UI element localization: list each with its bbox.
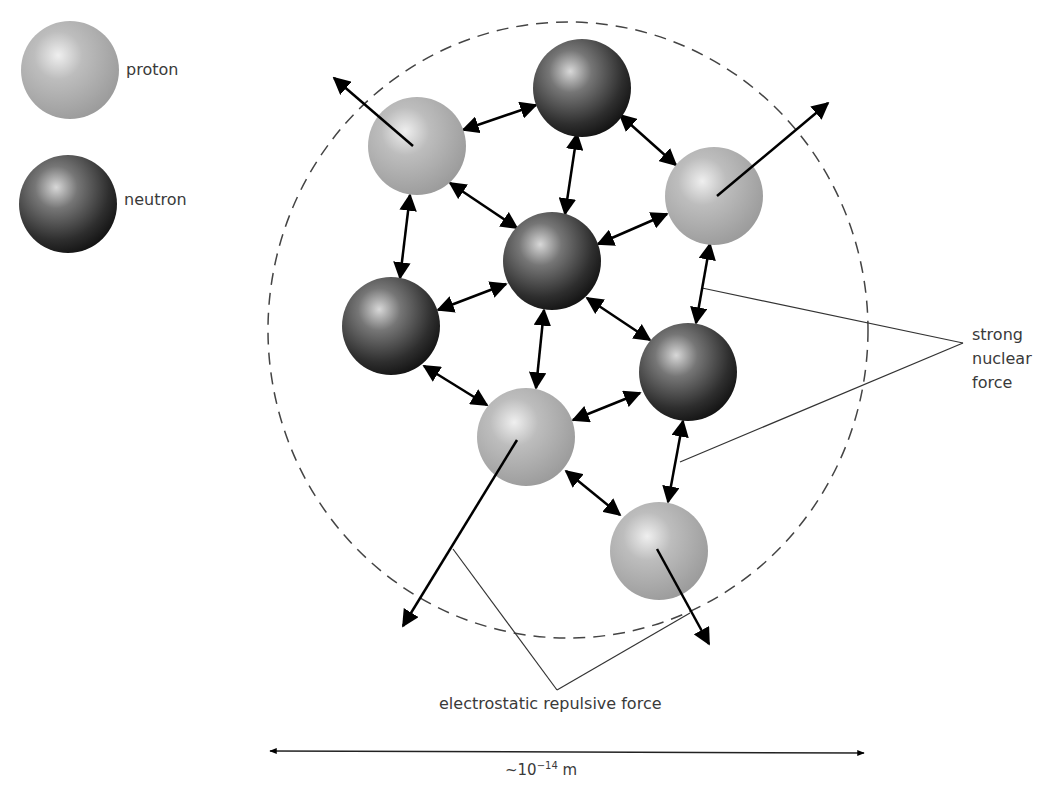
electrostatic-label: electrostatic repulsive force (439, 692, 662, 716)
scale-bar (270, 751, 864, 753)
scale-unit: m (558, 761, 577, 779)
proton-sphere (368, 97, 466, 195)
neutron-sphere (503, 212, 601, 310)
proton-sphere (665, 147, 763, 245)
nucleus-diagram (0, 0, 1051, 789)
legend-neutron-sphere (19, 155, 117, 253)
proton-sphere (477, 388, 575, 486)
legend-proton-label: proton (126, 58, 178, 82)
neutron-sphere (533, 39, 631, 137)
strong-force-line1: strong (972, 323, 1023, 347)
strong-force-line3: force (972, 371, 1012, 395)
neutron-sphere (639, 323, 737, 421)
neutron-sphere (342, 277, 440, 375)
scale-label: ~10−14 m (505, 760, 577, 779)
strong-force-line2: nuclear (972, 347, 1032, 371)
scale-base: ~10 (505, 761, 537, 779)
legend-proton-sphere (21, 21, 119, 119)
particles (342, 39, 763, 600)
scale-exponent: −14 (537, 760, 558, 771)
legend-neutron-label: neutron (124, 188, 187, 212)
